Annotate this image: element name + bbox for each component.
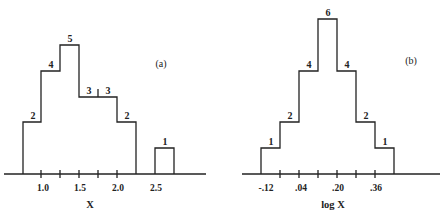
svg-text:.04: .04 [295,183,307,193]
svg-text:1.0: 1.0 [37,183,49,193]
svg-text:2: 2 [31,110,36,121]
svg-text:4: 4 [307,59,312,70]
isolated-bar-a [155,148,174,174]
svg-text:1.5: 1.5 [74,183,86,193]
svg-text:2.5: 2.5 [150,183,162,193]
svg-text:-.12: -.12 [258,183,273,193]
svg-text:3: 3 [106,85,111,96]
svg-text:1: 1 [269,136,274,147]
x-axis-title-a: X [86,199,94,210]
svg-text:1: 1 [383,136,388,147]
svg-text:1: 1 [163,136,168,147]
panel-label-b: (b) [405,55,417,67]
svg-text:6: 6 [326,7,331,18]
svg-text:5: 5 [68,33,73,44]
figure: 2 4 5 3 3 2 1 1.0 1.5 2.0 2.5 X (a) 1 2 … [0,0,441,219]
svg-text:2.0: 2.0 [112,183,124,193]
count-labels-a: 2 4 5 3 3 2 1 [31,33,168,147]
svg-text:4: 4 [49,59,54,70]
svg-text:2: 2 [364,110,369,121]
tick-labels-a: 1.0 1.5 2.0 2.5 [37,183,162,193]
tick-labels-b: -.12 .04 .20 .36 [258,183,382,193]
histogram-b [242,19,440,178]
histogram-outline-b [261,19,394,174]
count-labels-b: 1 2 4 6 4 2 1 [269,7,388,147]
histogram-outline-a [23,45,136,174]
svg-text:.20: .20 [332,183,344,193]
x-axis-title-b: log X [321,199,345,210]
svg-text:2: 2 [288,110,293,121]
svg-text:2: 2 [125,110,130,121]
svg-text:3: 3 [87,85,92,96]
panel-label-a: (a) [155,58,166,70]
svg-text:.36: .36 [370,183,382,193]
svg-text:4: 4 [345,59,350,70]
